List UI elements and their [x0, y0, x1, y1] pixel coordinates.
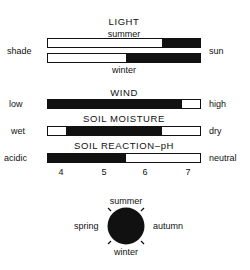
season-disc-icon: [0, 0, 250, 270]
